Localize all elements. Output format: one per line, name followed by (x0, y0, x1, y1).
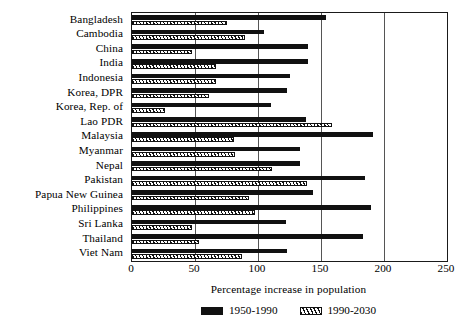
bar-period-2 (132, 210, 255, 215)
bar-group (132, 57, 447, 72)
category-label: Thailand (0, 231, 127, 246)
category-axis-labels: BangladeshCambodiaChinaIndiaIndonesiaKor… (0, 12, 127, 260)
category-label: Cambodia (0, 27, 127, 42)
bar-period-1 (132, 190, 313, 195)
bar-period-1 (132, 44, 308, 49)
bar-period-2 (132, 50, 192, 55)
x-axis-tick: 150 (312, 263, 329, 274)
x-axis-tick: 50 (188, 263, 199, 274)
bar-period-2 (132, 137, 234, 142)
bar-period-1 (132, 161, 300, 166)
bar-period-2 (132, 35, 245, 40)
bar-period-2 (132, 94, 209, 99)
bar-period-2 (132, 167, 272, 172)
bar-group (132, 203, 447, 218)
solid-black-swatch (201, 307, 223, 315)
bar-group (132, 13, 447, 28)
bar-group (132, 188, 447, 203)
bar-group (132, 86, 447, 101)
bar-group (132, 115, 447, 130)
bar-period-2 (132, 108, 165, 113)
category-label: Pakistan (0, 173, 127, 188)
bar-period-1 (132, 147, 300, 152)
x-axis-title: Percentage increase in population (131, 283, 446, 295)
bar-period-1 (132, 88, 287, 93)
bar-period-1 (132, 205, 371, 210)
bar-group (132, 28, 447, 43)
bar-period-2 (132, 196, 249, 201)
category-label: China (0, 41, 127, 56)
bar-period-2 (132, 225, 192, 230)
legend-item: 1990-2030 (300, 305, 376, 316)
legend-item: 1950-1990 (201, 305, 277, 316)
bar-period-1 (132, 249, 287, 254)
category-label: Sri Lanka (0, 216, 127, 231)
category-label: Myanmar (0, 143, 127, 158)
bar-period-2 (132, 64, 216, 69)
x-axis-tick-labels: 050100150200250 (131, 263, 446, 277)
bar-period-2 (132, 79, 216, 84)
bar-period-1 (132, 59, 308, 64)
plot-area (131, 12, 448, 262)
bar-group (132, 42, 447, 57)
population-increase-bar-chart: BangladeshCambodiaChinaIndiaIndonesiaKor… (0, 0, 469, 333)
category-label: Korea, DPR (0, 85, 127, 100)
category-label: Indonesia (0, 70, 127, 85)
category-label: Viet Nam (0, 246, 127, 261)
legend-label: 1990-2030 (328, 305, 376, 316)
bar-period-2 (132, 181, 307, 186)
category-label: Malaysia (0, 129, 127, 144)
category-label: Philippines (0, 202, 127, 217)
bar-period-2 (132, 254, 242, 259)
category-label: Papua New Guinea (0, 187, 127, 202)
bar-period-1 (132, 30, 264, 35)
x-axis-tick: 100 (249, 263, 266, 274)
bar-group (132, 159, 447, 174)
bar-period-1 (132, 74, 290, 79)
bar-group (132, 174, 447, 189)
category-label: Bangladesh (0, 12, 127, 27)
x-axis-tick: 200 (375, 263, 392, 274)
x-axis-tick: 0 (128, 263, 134, 274)
category-label: Lao PDR (0, 114, 127, 129)
bar-group (132, 130, 447, 145)
category-label: Korea, Rep. of (0, 100, 127, 115)
bar-period-2 (132, 123, 332, 128)
bar-group (132, 101, 447, 116)
bar-group (132, 247, 447, 262)
bar-period-2 (132, 240, 199, 245)
category-label: Nepal (0, 158, 127, 173)
bar-period-1 (132, 176, 365, 181)
category-label: India (0, 56, 127, 71)
bar-period-1 (132, 117, 306, 122)
bar-period-2 (132, 21, 227, 26)
bar-period-1 (132, 103, 271, 108)
bar-period-2 (132, 152, 235, 157)
bar-period-1 (132, 234, 363, 239)
hatched-swatch (300, 307, 322, 315)
x-axis-tick: 250 (438, 263, 455, 274)
bar-groups (132, 13, 447, 261)
legend-label: 1950-1990 (229, 305, 277, 316)
bar-period-1 (132, 15, 326, 20)
bar-group (132, 232, 447, 247)
bar-group (132, 144, 447, 159)
bar-group (132, 71, 447, 86)
bar-group (132, 217, 447, 232)
bar-period-1 (132, 132, 373, 137)
bar-period-1 (132, 220, 286, 225)
chart-legend: 1950-19901990-2030 (131, 305, 446, 316)
